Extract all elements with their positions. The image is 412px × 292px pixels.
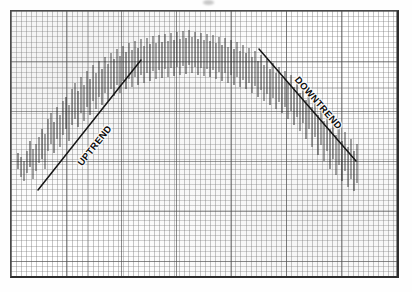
price-bars-group: [18, 30, 357, 191]
scanned-page: UPTREND DOWNTREND: [0, 0, 412, 292]
trendline-down: [259, 49, 356, 161]
price-plot: [11, 11, 399, 278]
trendlines-group: [38, 49, 356, 190]
chart-frame: UPTREND DOWNTREND: [10, 10, 399, 278]
top-scan-smudge-icon: [203, 0, 214, 5]
